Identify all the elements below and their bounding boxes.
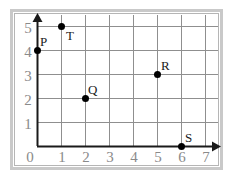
y-tick-label-3: 3	[20, 69, 36, 84]
x-tick-label-2: 2	[78, 150, 94, 165]
data-point-label-R: R	[161, 59, 170, 72]
data-point-S	[178, 143, 185, 150]
horizontal-gridlines	[37, 27, 218, 123]
y-tick-label-1: 1	[20, 117, 36, 132]
x-tick-label-1: 1	[54, 150, 70, 165]
y-tick-label-5: 5	[20, 21, 36, 36]
x-tick-label-4: 4	[126, 150, 142, 165]
data-point-R	[154, 71, 161, 78]
x-tick-label-5: 5	[150, 150, 166, 165]
y-tick-label-4: 4	[20, 45, 36, 60]
data-point-label-Q: Q	[88, 83, 97, 96]
y-tick-label-2: 2	[20, 93, 36, 108]
x-tick-label-7: 7	[198, 150, 214, 165]
x-tick-label-3: 3	[102, 150, 118, 165]
data-point-label-T: T	[66, 29, 74, 42]
data-point-label-S: S	[185, 131, 192, 144]
data-point-T	[58, 23, 65, 30]
coordinate-grid-figure: 0 1 2 3 4 5 6 7 1 2 3 4 5 P T Q R S	[0, 0, 237, 184]
vertical-gridlines	[38, 15, 206, 146]
data-point-label-P: P	[40, 35, 47, 48]
x-tick-label-0: 0	[22, 150, 38, 165]
x-tick-label-6: 6	[174, 150, 190, 165]
